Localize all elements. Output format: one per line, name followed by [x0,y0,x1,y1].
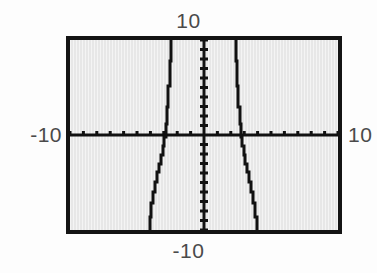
axis-label-y-min: -10 [0,240,377,261]
calculator-screen [66,36,342,234]
axis-label-x-max: 10 [348,124,372,145]
axis-label-y-max: 10 [0,10,377,31]
axis-label-x-min: -10 [6,124,62,145]
axes-group [70,40,338,230]
plot-canvas [70,40,338,230]
graph-figure: 10 -10 10 -10 [0,0,377,273]
